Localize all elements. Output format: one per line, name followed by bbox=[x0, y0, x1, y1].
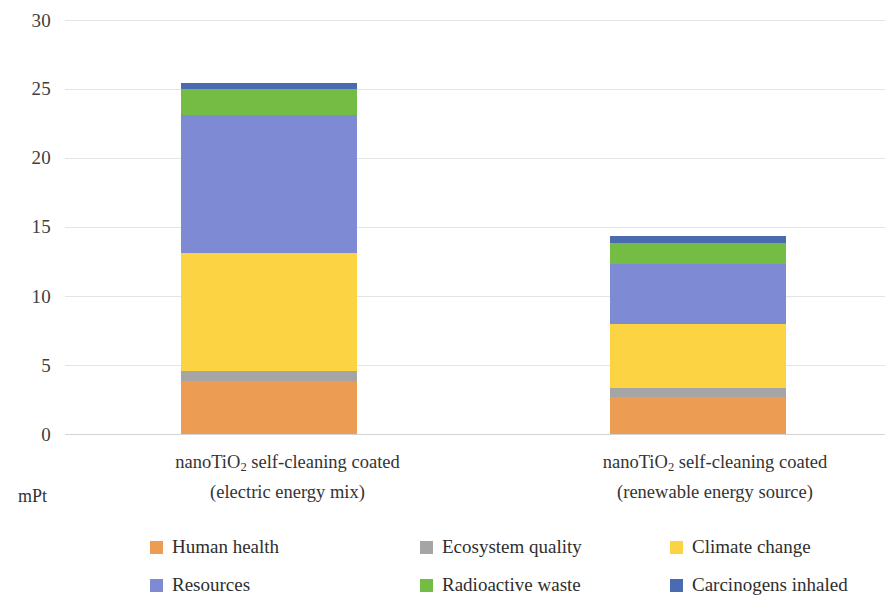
legend-swatch-icon bbox=[420, 579, 433, 592]
legend-swatch-icon bbox=[150, 541, 163, 554]
segment-resources[interactable] bbox=[181, 115, 357, 253]
gridline-30 bbox=[65, 20, 885, 21]
legend-item-resources[interactable]: Resources bbox=[150, 575, 420, 595]
legend-item-ecosystem-quality[interactable]: Ecosystem quality bbox=[420, 537, 670, 557]
y-tick-30: 30 bbox=[5, 11, 51, 30]
legend-swatch-icon bbox=[420, 541, 433, 554]
legend-label: Human health bbox=[172, 537, 279, 557]
segment-ecosystem-quality[interactable] bbox=[610, 388, 786, 397]
legend-item-human-health[interactable]: Human health bbox=[150, 537, 420, 557]
legend-label: Radioactive waste bbox=[442, 575, 581, 595]
segment-climate-change[interactable] bbox=[610, 324, 786, 388]
legend-item-climate-change[interactable]: Climate change bbox=[670, 537, 894, 557]
y-tick-10: 10 bbox=[5, 287, 51, 306]
legend-swatch-icon bbox=[670, 579, 683, 592]
gridline-0 bbox=[65, 434, 885, 435]
legend-label: Ecosystem quality bbox=[442, 537, 582, 557]
category-label-line1-text: nanoTiO bbox=[175, 452, 240, 472]
segment-carcinogens-inhaled[interactable] bbox=[610, 236, 786, 243]
segment-ecosystem-quality[interactable] bbox=[181, 371, 357, 381]
segment-resources[interactable] bbox=[610, 264, 786, 324]
category-label-line1-rest: self-cleaning coated bbox=[247, 452, 400, 472]
legend-label: Climate change bbox=[692, 537, 811, 557]
plot-area bbox=[65, 20, 885, 434]
category-label-line1-text: nanoTiO bbox=[603, 452, 668, 472]
y-tick-0: 0 bbox=[5, 425, 51, 444]
y-tick-25: 25 bbox=[5, 79, 51, 98]
segment-human-health[interactable] bbox=[610, 397, 786, 434]
stacked-bar-chart: 30 25 20 15 10 5 0 bbox=[0, 0, 894, 598]
bar-renewable-energy-source[interactable] bbox=[610, 236, 786, 434]
legend-label: Resources bbox=[172, 575, 250, 595]
segment-climate-change[interactable] bbox=[181, 253, 357, 371]
category-label-line2: (electric energy mix) bbox=[110, 480, 465, 505]
y-axis-unit-label: mPt bbox=[18, 486, 47, 507]
category-label-renewable-energy-source: nanoTiO2 self-cleaning coated (renewable… bbox=[535, 450, 894, 505]
segment-radioactive-waste[interactable] bbox=[610, 243, 786, 264]
y-tick-5: 5 bbox=[5, 356, 51, 375]
legend-item-carcinogens-inhaled[interactable]: Carcinogens inhaled bbox=[670, 575, 894, 595]
category-label-line2: (renewable energy source) bbox=[535, 480, 894, 505]
legend-swatch-icon bbox=[670, 541, 683, 554]
segment-carcinogens-inhaled[interactable] bbox=[181, 83, 357, 89]
category-label-line1-rest: self-cleaning coated bbox=[674, 452, 827, 472]
legend-item-radioactive-waste[interactable]: Radioactive waste bbox=[420, 575, 670, 595]
legend-swatch-icon bbox=[150, 579, 163, 592]
chart-legend: Human health Ecosystem quality Climate c… bbox=[150, 528, 870, 598]
segment-radioactive-waste[interactable] bbox=[181, 89, 357, 115]
category-label-electric-energy-mix: nanoTiO2 self-cleaning coated (electric … bbox=[110, 450, 465, 505]
legend-label: Carcinogens inhaled bbox=[692, 575, 848, 595]
y-tick-20: 20 bbox=[5, 148, 51, 167]
bar-electric-energy-mix[interactable] bbox=[181, 83, 357, 434]
y-tick-15: 15 bbox=[5, 217, 51, 236]
segment-human-health[interactable] bbox=[181, 381, 357, 434]
